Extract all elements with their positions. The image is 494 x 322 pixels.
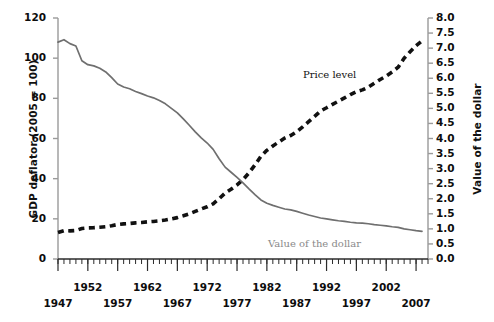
left-axis-tick: 0 (6, 252, 46, 264)
x-axis-tick: 2007 (391, 297, 441, 309)
x-axis-tick: 1967 (152, 297, 202, 309)
right-axis-tick: 4.5 (436, 116, 478, 128)
right-axis-tick: 5.5 (436, 86, 478, 98)
left-axis-tick: 60 (6, 132, 46, 144)
x-axis-tick: 1947 (33, 297, 83, 309)
value-of-dollar-annotation: Value of the dollar (268, 238, 361, 249)
right-axis-tick: 2.0 (436, 192, 478, 204)
right-axis-tick: 5.0 (436, 101, 478, 113)
price-level-line (58, 41, 422, 233)
x-axis-tick: 1992 (302, 281, 352, 293)
left-axis-tick: 100 (6, 51, 46, 63)
right-axis-tick: 3.0 (436, 162, 478, 174)
right-axis-tick: 0.5 (436, 237, 478, 249)
plot-area (0, 0, 494, 322)
left-axis-tick: 40 (6, 172, 46, 184)
x-axis-tick: 1977 (212, 297, 262, 309)
price-level-annotation: Price level (303, 69, 356, 80)
x-axis-tick: 1962 (123, 281, 173, 293)
right-axis-tick: 3.5 (436, 147, 478, 159)
right-axis-tick: 1.0 (436, 222, 478, 234)
right-axis-tick: 0.0 (436, 252, 478, 264)
right-axis-tick: 7.0 (436, 41, 478, 53)
left-axis-tick: 20 (6, 212, 46, 224)
x-axis-tick: 2002 (361, 281, 411, 293)
x-axis-tick: 1952 (63, 281, 113, 293)
right-axis-tick: 1.5 (436, 207, 478, 219)
left-axis-tick: 120 (6, 11, 46, 23)
x-axis-tick: 1957 (93, 297, 143, 309)
x-axis-tick: 1987 (272, 297, 322, 309)
value-of-dollar-line (58, 40, 422, 232)
right-axis-tick: 6.0 (436, 71, 478, 83)
gdp-deflator-chart: GDP deflator (2005 = 100) Value of the d… (0, 0, 494, 322)
right-axis-tick: 2.5 (436, 177, 478, 189)
x-axis-tick: 1982 (242, 281, 292, 293)
left-axis-tick: 80 (6, 91, 46, 103)
x-axis-tick: 1972 (182, 281, 232, 293)
right-axis-tick: 8.0 (436, 11, 478, 23)
right-axis-tick: 6.5 (436, 56, 478, 68)
right-axis-tick: 7.5 (436, 26, 478, 38)
right-axis-tick: 4.0 (436, 132, 478, 144)
x-axis-tick: 1997 (331, 297, 381, 309)
